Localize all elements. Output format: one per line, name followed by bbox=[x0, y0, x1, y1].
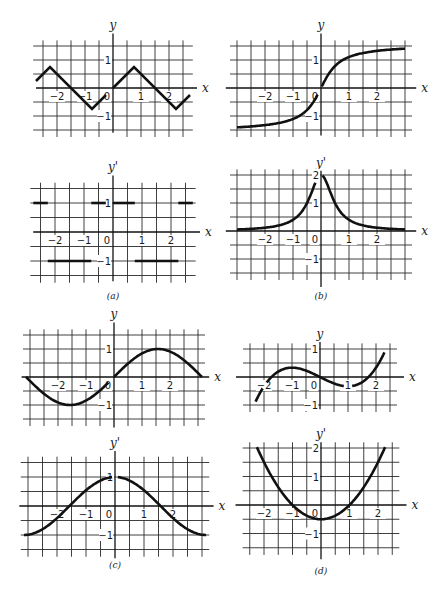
y-tick-label: −1 bbox=[304, 254, 319, 265]
axes bbox=[19, 451, 213, 558]
y-axis-label: y bbox=[109, 18, 117, 32]
x-tick-label: −2 bbox=[48, 235, 63, 246]
y-tick-label: −1 bbox=[96, 111, 111, 122]
caption-a: (a) bbox=[107, 291, 120, 301]
y-tick-label: 2 bbox=[313, 170, 319, 181]
plot-a-top: xy−2−11201−1 bbox=[33, 18, 209, 137]
x-tick-label: −2 bbox=[258, 234, 273, 245]
x-tick-label: −1 bbox=[286, 234, 301, 245]
axes bbox=[236, 442, 407, 559]
y-tick-label: 2 bbox=[313, 443, 319, 454]
x-tick-label: 2 bbox=[168, 235, 174, 246]
x-tick-label: 2 bbox=[167, 380, 173, 391]
x-tick-label: −2 bbox=[51, 380, 66, 391]
y-axis-label: y bbox=[110, 307, 118, 321]
plot-b-top: xy−2−11201−1 bbox=[226, 18, 428, 137]
y-tick-label: −1 bbox=[96, 256, 111, 267]
plot-c-bottom: xy'−2−11201−1 bbox=[19, 436, 225, 558]
y-axis-label: y' bbox=[109, 436, 120, 450]
plot-a-bottom: xy'−2−11201−1 bbox=[30, 160, 212, 282]
y-tick-label: 1 bbox=[312, 344, 318, 355]
axes bbox=[33, 175, 200, 281]
figure: xy−2−11201−1xy'−2−11201−1xy−2−11201−1xy'… bbox=[0, 0, 442, 598]
y-tick-label: −1 bbox=[97, 400, 112, 411]
origin-label: 0 bbox=[106, 509, 112, 520]
x-axis-label: x bbox=[421, 224, 428, 238]
y-tick-label: −1 bbox=[98, 530, 113, 541]
x-axis-label: x bbox=[205, 225, 212, 239]
y-tick-label: 1 bbox=[313, 55, 319, 66]
y-tick-label: 1 bbox=[105, 55, 111, 66]
y-axis-label: y bbox=[316, 327, 324, 341]
x-tick-label: 1 bbox=[139, 235, 145, 246]
x-tick-label: −2 bbox=[50, 91, 65, 102]
origin-label: 0 bbox=[311, 380, 317, 391]
y-tick-label: 1 bbox=[106, 344, 112, 355]
x-axis-label: x bbox=[421, 81, 428, 95]
y-tick-label: 1 bbox=[313, 472, 319, 483]
x-tick-label: −1 bbox=[79, 509, 94, 520]
x-tick-label: −2 bbox=[257, 380, 272, 391]
curve-segment bbox=[237, 183, 315, 230]
x-tick-label: 2 bbox=[373, 380, 379, 391]
plot-d-bottom: xy'−2−112021−1 bbox=[236, 427, 419, 559]
origin-label: 0 bbox=[104, 235, 110, 246]
x-tick-label: −1 bbox=[79, 380, 94, 391]
plot-d-top: xy−2−11201−1 bbox=[236, 327, 416, 412]
caption-b: (b) bbox=[315, 291, 328, 301]
x-tick-label: −2 bbox=[257, 508, 272, 519]
x-tick-label: 1 bbox=[139, 380, 145, 391]
x-tick-label: −2 bbox=[258, 91, 273, 102]
x-tick-label: 1 bbox=[141, 509, 147, 520]
x-tick-label: 1 bbox=[345, 380, 351, 391]
x-axis-label: x bbox=[202, 81, 209, 95]
y-axis-label: y' bbox=[315, 156, 326, 170]
x-tick-label: −1 bbox=[286, 91, 301, 102]
x-axis-label: x bbox=[219, 499, 226, 513]
x-axis-label: x bbox=[412, 498, 419, 512]
origin-label: 0 bbox=[312, 234, 318, 245]
curve-segment bbox=[237, 95, 318, 128]
y-axis-label: y' bbox=[315, 427, 326, 441]
x-tick-label: −1 bbox=[285, 380, 300, 391]
y-tick-label: 1 bbox=[313, 198, 319, 209]
y-axis-label: y' bbox=[107, 160, 118, 174]
x-tick-label: 1 bbox=[138, 91, 144, 102]
x-tick-label: −1 bbox=[77, 235, 92, 246]
plot-b-bottom: xy'−2−112021−1 bbox=[226, 156, 428, 287]
x-tick-label: 2 bbox=[375, 508, 381, 519]
y-tick-label: −1 bbox=[304, 529, 319, 540]
x-tick-label: 1 bbox=[346, 234, 352, 245]
y-tick-label: −1 bbox=[303, 400, 318, 411]
x-axis-label: x bbox=[409, 370, 416, 384]
x-axis-label: x bbox=[214, 370, 221, 384]
y-tick-label: −1 bbox=[304, 111, 319, 122]
x-tick-label: 1 bbox=[346, 91, 352, 102]
x-tick-label: 2 bbox=[374, 234, 380, 245]
caption-d: (d) bbox=[315, 566, 328, 576]
caption-c: (c) bbox=[109, 560, 122, 570]
x-tick-label: 1 bbox=[346, 508, 352, 519]
x-tick-label: 2 bbox=[374, 91, 380, 102]
plot-c-top: xy−2−11201−1 bbox=[22, 307, 222, 427]
figure-canvas: xy−2−11201−1xy'−2−11201−1xy−2−11201−1xy'… bbox=[0, 0, 442, 598]
y-axis-label: y bbox=[317, 18, 325, 32]
